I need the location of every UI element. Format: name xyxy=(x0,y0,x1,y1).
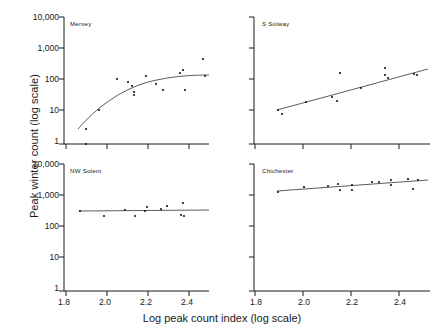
panel-title: NW Solent xyxy=(70,167,101,174)
data-points xyxy=(79,202,185,217)
panel-plot-chichester xyxy=(222,147,444,307)
panel-title: Mersey xyxy=(70,20,92,27)
panel-title: Chichester xyxy=(262,167,294,174)
panel-plot-s-solway xyxy=(222,0,444,160)
panel-nw-solent: NW Solent xyxy=(0,147,230,307)
figure-container: Peak winter count (log scale) Log peak c… xyxy=(0,0,444,335)
panel-chichester: Chichester xyxy=(222,147,444,307)
x-axis-label: Log peak count index (log scale) xyxy=(0,312,444,324)
data-points xyxy=(85,58,206,145)
panel-s-solway: S Solway xyxy=(222,0,444,160)
panel-title: S Solway xyxy=(262,20,289,27)
panel-plot-nw-solent xyxy=(0,147,230,307)
panel-plot-mersey xyxy=(0,0,230,160)
panel-mersey: Mersey xyxy=(0,0,230,160)
